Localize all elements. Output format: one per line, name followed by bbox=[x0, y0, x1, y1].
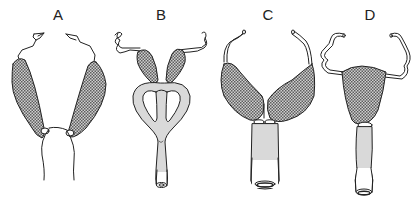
panel-label-b: B bbox=[151, 6, 171, 23]
panel-b-drawing bbox=[115, 32, 207, 188]
panel-d-drawing bbox=[321, 33, 410, 195]
anatomy-figure: A B C D bbox=[0, 0, 418, 208]
anatomy-drawing bbox=[0, 0, 418, 208]
panel-label-c: C bbox=[258, 6, 278, 23]
panel-c-drawing bbox=[221, 30, 315, 189]
panel-a-drawing bbox=[12, 33, 106, 180]
panel-label-a: A bbox=[48, 6, 68, 23]
panel-label-d: D bbox=[360, 6, 380, 23]
cut-off-caption bbox=[8, 200, 413, 208]
